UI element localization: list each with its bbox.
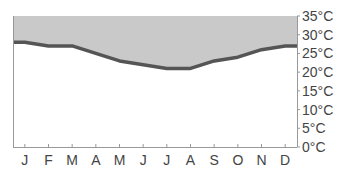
y-tick-label: 35°C bbox=[302, 8, 333, 24]
x-tick-label: M bbox=[114, 152, 126, 168]
shaded-area bbox=[13, 16, 297, 68]
y-tick-label: 30°C bbox=[302, 27, 333, 43]
y-tick-label: 20°C bbox=[302, 64, 333, 80]
y-tick-label: 15°C bbox=[302, 83, 333, 99]
x-tick-label: J bbox=[21, 152, 28, 168]
x-tick-label: A bbox=[186, 152, 196, 168]
x-tick-label: J bbox=[163, 152, 170, 168]
x-tick-label: O bbox=[232, 152, 243, 168]
x-tick-label: N bbox=[256, 152, 266, 168]
x-tick-label: F bbox=[44, 152, 53, 168]
x-tick-label: A bbox=[91, 152, 101, 168]
x-tick-label: J bbox=[140, 152, 147, 168]
x-tick-label: S bbox=[209, 152, 218, 168]
x-tick-label: M bbox=[66, 152, 78, 168]
y-axis-ticks: 0°C5°C10°C15°C20°C25°C30°C35°C bbox=[297, 8, 333, 155]
y-tick-label: 0°C bbox=[302, 139, 326, 155]
temperature-chart: JFMAMJJASOND 0°C5°C10°C15°C20°C25°C30°C3… bbox=[0, 0, 339, 172]
y-tick-label: 5°C bbox=[302, 120, 326, 136]
y-tick-label: 25°C bbox=[302, 45, 333, 61]
x-tick-label: D bbox=[280, 152, 290, 168]
y-tick-label: 10°C bbox=[302, 102, 333, 118]
